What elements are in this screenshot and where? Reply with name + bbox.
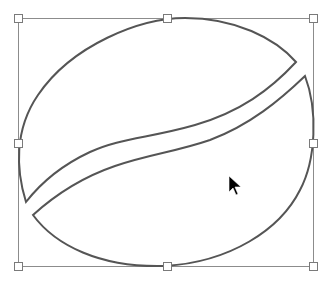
resize-handle-bottom-left[interactable] (15, 263, 23, 271)
resize-handle-top-middle[interactable] (164, 15, 172, 23)
resize-handle-top-right[interactable] (310, 15, 318, 23)
resize-handle-middle-right[interactable] (310, 140, 318, 148)
drawing-canvas[interactable] (0, 0, 331, 284)
resize-handle-bottom-right[interactable] (310, 263, 318, 271)
resize-handle-middle-left[interactable] (15, 140, 23, 148)
resize-handle-bottom-middle[interactable] (164, 263, 172, 271)
resize-handle-top-left[interactable] (15, 15, 23, 23)
